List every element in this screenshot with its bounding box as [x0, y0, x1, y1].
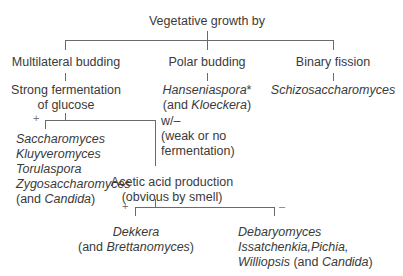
- connector-line: [65, 40, 334, 41]
- connector-line: [155, 199, 156, 207]
- node-hanseniaspora: Hanseniaspora* (and Kloeckera): [163, 83, 252, 113]
- plus-symbol: +: [122, 200, 128, 212]
- connector-line: [333, 40, 334, 50]
- node-strong-fermentation: Strong fermentation of glucose: [11, 83, 121, 113]
- connector-line: [65, 73, 66, 81]
- connector-line: [135, 207, 136, 216]
- connector-line: [207, 73, 208, 81]
- connector-line: [135, 207, 275, 208]
- node-binary-fission: Binary fission: [296, 55, 370, 70]
- node-polar-budding: Polar budding: [168, 55, 245, 70]
- connector-line: [45, 120, 46, 129]
- root-node: Vegetative growth by: [149, 14, 265, 29]
- connector-line: [207, 40, 208, 50]
- connector-line: [65, 40, 66, 50]
- connector-line: [155, 120, 156, 166]
- connector-line: [45, 120, 156, 121]
- node-schizosaccharomyces: Schizosaccharomyces: [271, 83, 395, 98]
- node-multilateral-budding: Multilateral budding: [12, 55, 120, 70]
- node-non-acetic-genera: Debaryomyces Issatchenkia,Pichia, Willio…: [238, 225, 373, 270]
- plus-symbol: +: [33, 112, 39, 124]
- node-acetic-acid-production: Acetic acid production (obvious by smell…: [111, 175, 233, 205]
- node-dekkera: Dekkera (and Brettanomyces): [78, 225, 194, 255]
- connector-line: [274, 207, 275, 216]
- node-weak-fermentation-label: w/– (weak or no fermentation): [161, 114, 235, 159]
- minus-symbol: –: [279, 200, 285, 212]
- connector-line: [333, 73, 334, 81]
